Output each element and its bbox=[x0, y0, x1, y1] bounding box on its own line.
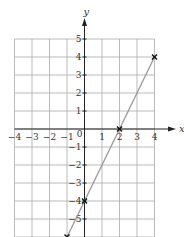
x-tick-label: 1 bbox=[99, 132, 105, 142]
x-tick-label: −3 bbox=[25, 132, 39, 142]
y-tick-label: 1 bbox=[76, 106, 82, 116]
origin-label: 0 bbox=[77, 129, 83, 139]
y-tick-label: −4 bbox=[68, 196, 82, 206]
y-axis-arrow-icon bbox=[82, 18, 87, 26]
y-tick-label: −3 bbox=[68, 178, 82, 188]
x-tick-label: −4 bbox=[8, 132, 22, 142]
coordinate-graph: xy−4−3−2−11234054321−1−2−3−4−5 bbox=[0, 0, 184, 237]
x-axis-label: x bbox=[179, 123, 184, 134]
x-tick-label: 3 bbox=[134, 132, 140, 142]
x-tick-label: 4 bbox=[152, 132, 158, 142]
x-axis-arrow-icon bbox=[168, 127, 176, 132]
x-tick-label: −1 bbox=[60, 132, 73, 142]
y-tick-label: −2 bbox=[68, 160, 81, 170]
y-tick-label: 3 bbox=[76, 70, 82, 80]
y-tick-label: 5 bbox=[76, 34, 82, 44]
y-tick-label: 2 bbox=[76, 88, 82, 98]
y-tick-label: −1 bbox=[68, 142, 81, 152]
y-tick-label: −5 bbox=[68, 214, 82, 224]
x-tick-label: −2 bbox=[43, 132, 56, 142]
y-axis-label: y bbox=[83, 6, 90, 17]
y-tick-label: 4 bbox=[76, 52, 82, 62]
